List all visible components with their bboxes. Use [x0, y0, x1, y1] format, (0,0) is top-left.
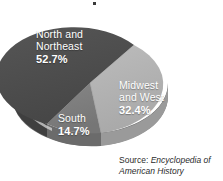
- pie-chart: North and Northeast 52.7% Midwest and We…: [0, 0, 223, 181]
- slice-label-line2: and West: [119, 91, 164, 103]
- source-title-line2: American History: [119, 166, 184, 176]
- slice-label-line1: Midwest: [119, 79, 164, 91]
- slice-label-south: South 14.7%: [58, 112, 90, 137]
- pie-graphic: [0, 0, 223, 181]
- source-attribution: Source: Encyclopedia of American History: [119, 155, 223, 177]
- slice-label-north-and-northeast: North and Northeast 52.7%: [36, 28, 83, 66]
- slice-label-line1: South: [58, 112, 90, 124]
- source-title-line1: Encyclopedia of: [151, 155, 211, 165]
- slice-value-south: 14.7%: [58, 125, 90, 138]
- slice-label-midwest-and-west: Midwest and West 32.4%: [119, 79, 164, 117]
- source-prefix: Source:: [119, 155, 151, 165]
- slice-label-line2: Northeast: [36, 40, 83, 52]
- slice-value-midwest-and-west: 32.4%: [119, 104, 164, 117]
- slice-label-line1: North and: [36, 28, 83, 40]
- slice-value-north-and-northeast: 52.7%: [36, 53, 83, 66]
